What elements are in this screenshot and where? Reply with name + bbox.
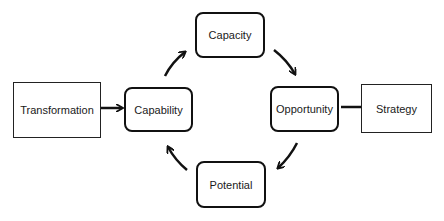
arrow-capacity-opportunity [274, 50, 295, 74]
node-strategy: Strategy [361, 84, 432, 133]
arrow-capability-capacity [165, 52, 185, 76]
node-label: Capacity [209, 29, 252, 41]
node-label: Potential [210, 179, 253, 191]
node-label: Opportunity [276, 103, 333, 115]
node-capability: Capability [124, 87, 193, 132]
node-label: Strategy [376, 103, 417, 115]
node-transformation: Transformation [13, 82, 101, 138]
node-label: Capability [134, 104, 182, 116]
arrow-potential-capability [168, 147, 187, 170]
node-label: Transformation [20, 104, 94, 116]
node-potential: Potential [196, 161, 266, 208]
node-capacity: Capacity [195, 12, 265, 58]
arrow-opportunity-potential [278, 143, 297, 168]
node-opportunity: Opportunity [270, 86, 339, 132]
